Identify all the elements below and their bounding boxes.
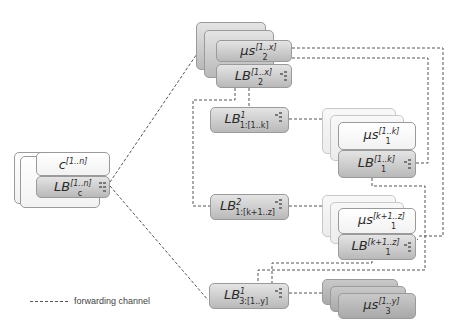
lb1b-label: LB[k+1..z]1 [339,238,403,257]
ms1b-label: μs[k+1..z]1 [339,212,415,231]
port-icon [99,182,107,192]
lb2-label: LB[1..x]2 [217,68,281,87]
client-label: c[1..n] [37,157,109,172]
lb3-1-label: LB13:[1..y] [210,287,282,306]
lb1a-card: LB[1..k]1 [338,150,416,178]
ms1a-card: μs[1..k]1 [338,122,416,150]
lb1-2-label: LB21:[k+1..z] [211,198,284,217]
client-lb-card: LB[1..n]c [36,176,110,198]
service-2-stack: μs[1..x]2 LB[1..x]2 [196,22,296,94]
edge-client-to-lb2 [110,42,205,182]
service-1b-stack: μs[k+1..z]1 LB[k+1..z]1 [322,195,418,265]
legend: forwarding channel [30,296,150,306]
port-icon [275,288,283,298]
lb1-1-card: LB11:[1..k] [210,107,289,133]
port-icon [404,242,412,252]
port-icon [404,159,412,169]
port-icon [275,112,283,122]
ms3-card: μs[1..y]3 [338,293,416,319]
client-lb-label: LB[1..n]c [37,179,99,198]
ms1a-label: μs[1..k]1 [339,127,415,146]
ms3-label: μs[1..y]3 [339,297,415,316]
ms2-label: μs[1..x]2 [217,43,291,62]
client-node-stack: c[1..n] LB[1..n]c [14,152,114,214]
ms2-card: μs[1..x]2 [216,40,292,62]
port-icon [275,199,283,209]
edge-client-to-lb3 [110,186,208,300]
legend-label: forwarding channel [74,296,150,306]
lb2-card: LB[1..x]2 [216,64,292,88]
dashed-line-icon [30,301,68,302]
lb3-1-card: LB13:[1..y] [209,283,289,309]
service-3-stack: μs[1..y]3 [322,279,418,333]
edge-lb2-to-lb1-2 [193,88,235,206]
lb1-2-card: LB21:[k+1..z] [210,194,289,220]
lb1-1-label: LB11:[1..k] [211,111,282,130]
service-1a-stack: μs[1..k]1 LB[1..k]1 [322,108,418,180]
ms1b-card: μs[k+1..z]1 [338,208,416,234]
client-card: c[1..n] [36,152,110,176]
lb1b-card: LB[k+1..z]1 [338,234,416,260]
lb1a-label: LB[1..k]1 [339,155,405,174]
port-icon [280,71,288,81]
